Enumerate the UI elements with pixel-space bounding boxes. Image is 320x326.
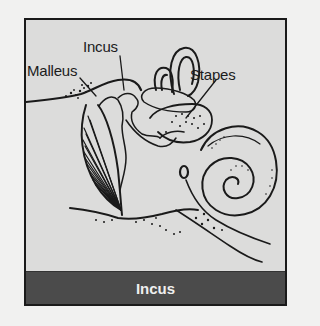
caption-text: Incus <box>136 280 175 297</box>
figure-frame: Malleus Incus Stapes Incus <box>24 18 287 306</box>
label-stapes: Stapes <box>190 66 236 83</box>
cochlea-dots <box>211 136 273 195</box>
stapes-speckle <box>165 113 205 133</box>
round-window <box>180 166 188 178</box>
stapes-leader <box>186 80 216 118</box>
incus-body <box>118 94 160 139</box>
cochlea <box>201 126 277 215</box>
caption-bar: Incus <box>26 271 285 304</box>
label-malleus: Malleus <box>27 62 77 79</box>
incus-leader <box>120 56 124 90</box>
middle-ear-floor <box>70 208 198 219</box>
label-incus: Incus <box>83 38 118 55</box>
ear-anatomy-illustration <box>26 20 285 272</box>
eustachian-tube-upper <box>186 180 270 244</box>
